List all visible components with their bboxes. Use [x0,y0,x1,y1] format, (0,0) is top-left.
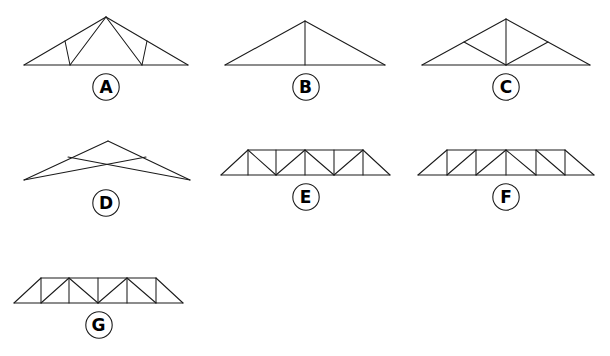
truss-d-label-row: D [6,188,206,218]
truss-a-label-badge: A [91,72,121,102]
truss-c: C [406,8,606,102]
truss-e-left-end-diagonal [221,150,248,175]
truss-b-label-badge: B [291,72,321,102]
truss-c-label-badge: C [491,72,521,102]
truss-b: B [213,8,398,102]
pratt-truss-drawing [6,258,191,310]
truss-a: A [6,8,206,102]
truss-e-diagonal-2 [276,150,305,175]
truss-a-label-row: A [6,72,206,102]
truss-g-right-end-diagonal [156,278,183,303]
scissor-truss-drawing [6,124,206,188]
truss-f-diagonal-3 [506,150,536,175]
truss-g-diagonal-1 [41,278,69,303]
truss-b-left-rafter [225,21,305,65]
truss-g-diagonal-2 [69,278,98,303]
truss-g: G [6,258,191,340]
truss-f-diagonal-1 [447,150,476,175]
truss-e-label-badge: E [291,182,321,212]
truss-b-right-rafter [305,21,385,65]
truss-c-right-diagonal [506,42,548,65]
truss-f-left-end-diagonal [418,150,447,175]
truss-a-label-letter: A [99,79,112,96]
truss-e: E [213,130,398,212]
truss-e-label-row: E [213,182,398,212]
truss-g-label-letter: G [92,317,106,334]
truss-f-label-letter: F [500,189,512,206]
truss-e-label-letter: E [300,189,312,206]
truss-a-left-outer-web [65,41,70,65]
truss-d: D [6,124,206,218]
truss-d-right-rafter [108,141,190,180]
truss-a-right-outer-web [142,41,147,65]
truss-f-label-row: F [406,182,606,212]
truss-c-label-row: C [406,72,606,102]
truss-e-diagonal-3 [305,150,334,175]
truss-b-label-row: B [213,72,398,102]
truss-g-left-end-diagonal [14,278,41,303]
truss-figure: ABCDEFG [0,0,610,356]
truss-f-diagonal-4 [536,150,565,175]
truss-b-label-letter: B [299,79,312,96]
truss-g-label-badge: G [84,310,114,340]
truss-c-left-diagonal [464,42,506,65]
king-post-truss-drawing [213,8,398,72]
truss-g-diagonal-4 [127,278,156,303]
truss-d-left-rafter [24,141,108,180]
truss-f-diagonal-2 [476,150,506,175]
fan-truss-drawing [406,8,606,72]
truss-g-label-row: G [6,310,191,340]
truss-f-label-badge: F [491,182,521,212]
truss-g-diagonal-3 [98,278,127,303]
truss-f-right-end-diagonal [565,150,594,175]
truss-e-diagonal-1 [248,150,276,175]
truss-a-left-inner-web [70,17,106,65]
truss-c-label-letter: C [500,79,512,96]
truss-a-right-inner-web [106,17,142,65]
truss-f: F [406,130,606,212]
truss-e-diagonal-4 [334,150,363,175]
warren-truss-with-verticals-drawing [213,130,398,182]
truss-e-right-end-diagonal [363,150,390,175]
truss-d-label-badge: D [91,188,121,218]
howe-truss-drawing [406,130,606,182]
fink-truss-drawing [6,8,206,72]
truss-d-label-letter: D [99,195,113,212]
